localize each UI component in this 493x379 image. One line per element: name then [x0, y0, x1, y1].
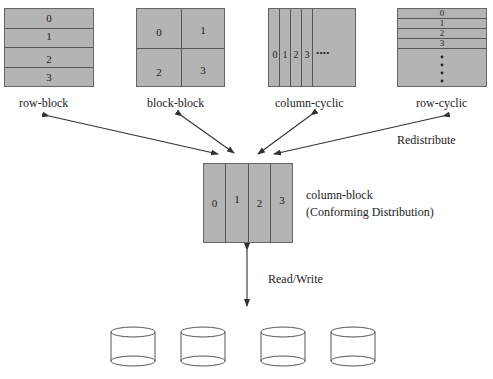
disk-icon [111, 327, 155, 366]
arrow-row-block [49, 116, 218, 154]
arrow-column-cyclic [258, 115, 311, 154]
disk-icon [331, 327, 375, 366]
disk-icon [261, 327, 305, 366]
disk-array [111, 327, 375, 366]
disk-icon [181, 327, 225, 366]
arrows-and-disks [0, 0, 493, 379]
arrow-row-cyclic [274, 116, 443, 154]
